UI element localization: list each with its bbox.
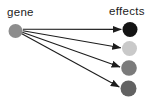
effect-node-4: [121, 81, 137, 97]
arrow-2: [23, 31, 121, 48]
node-layer: [9, 22, 138, 97]
gene-node: [9, 24, 23, 38]
arrow-layer: [22, 29, 122, 87]
effect-node-1: [123, 22, 138, 37]
arrow-3: [22, 32, 120, 67]
arrow-4: [22, 34, 120, 87]
pleiotropy-diagram: gene effects: [0, 0, 152, 103]
diagram-svg: [0, 0, 152, 103]
effect-node-3: [121, 60, 137, 76]
effect-node-2: [122, 41, 137, 56]
